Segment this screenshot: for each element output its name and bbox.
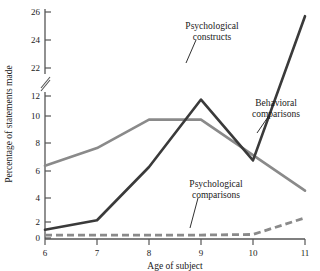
x-tick-label-7: 7: [95, 248, 100, 258]
y-tick-label-12: 12: [31, 91, 40, 101]
series-line-psychological-constructs: [45, 16, 305, 230]
leader-line-psychological-comparisons: [190, 198, 198, 228]
y-tick-label-24: 24: [31, 35, 41, 45]
x-tick-label-9: 9: [199, 248, 204, 258]
series-line-psychological-comparisons: [45, 218, 305, 235]
series-line-behavioral-comparisons: [45, 120, 305, 191]
chart-figure: 26 24 22 12 10 8 6 4 2 0 6 7 8 9 10 11 A…: [0, 0, 320, 271]
axis-break-marker: [41, 74, 50, 92]
x-tick-label-8: 8: [147, 248, 152, 258]
x-axis-title: Age of subject: [147, 261, 203, 271]
x-tick-label-6: 6: [43, 248, 48, 258]
y-tick-label-4: 4: [36, 193, 41, 203]
y-tick-label-6: 6: [36, 166, 41, 176]
annotation-behavioral-comparisons: Behavioral comparisons: [252, 98, 300, 119]
line-chart: 26 24 22 12 10 8 6 4 2 0 6 7 8 9 10 11 A…: [0, 0, 320, 271]
y-tick-marks: [45, 12, 51, 238]
y-tick-label-10: 10: [31, 111, 41, 121]
y-tick-label-22: 22: [31, 63, 40, 73]
annotation-line-2: constructs: [193, 32, 232, 42]
y-tick-label-8: 8: [36, 138, 41, 148]
annotation-line-2: comparisons: [192, 190, 240, 200]
leader-line-psychological-constructs: [186, 40, 196, 63]
x-tick-label-10: 10: [249, 248, 259, 258]
annotation-line-1: Psychological: [185, 21, 239, 31]
annotation-line-1: Psychological: [189, 179, 243, 189]
annotation-psychological-comparisons: Psychological comparisons: [189, 179, 243, 200]
y-tick-label-26: 26: [31, 7, 41, 17]
y-axis-title: Percentage of statements made: [4, 65, 14, 182]
x-tick-marks: [45, 239, 305, 245]
annotation-psychological-constructs: Psychological constructs: [185, 21, 239, 42]
y-tick-label-2: 2: [36, 217, 41, 227]
x-tick-label-11: 11: [301, 248, 310, 258]
annotation-line-1: Behavioral: [255, 98, 297, 108]
annotation-line-2: comparisons: [252, 109, 300, 119]
y-tick-label-0: 0: [36, 233, 41, 243]
